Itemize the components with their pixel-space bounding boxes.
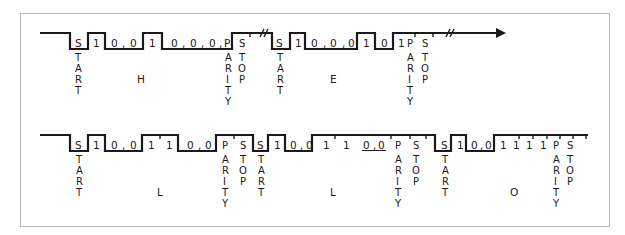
svg-text:O: O xyxy=(239,165,247,176)
svg-text:O: O xyxy=(238,63,246,74)
svg-text:R: R xyxy=(222,165,229,176)
svg-text:S: S xyxy=(276,37,283,49)
svg-text:R: R xyxy=(75,74,82,85)
svg-text:0: 0 xyxy=(381,37,388,49)
svg-text:1: 1 xyxy=(149,37,156,49)
svg-text:O: O xyxy=(566,165,574,176)
svg-text:S: S xyxy=(240,140,246,151)
svg-text:I: I xyxy=(408,74,411,85)
svg-text:T: T xyxy=(238,52,246,63)
svg-text:1: 1 xyxy=(274,139,281,151)
svg-text:R: R xyxy=(76,176,83,187)
svg-text:0: 0 xyxy=(471,139,478,151)
svg-text:1: 1 xyxy=(457,139,464,151)
svg-text:A: A xyxy=(75,63,82,74)
svg-text:1: 1 xyxy=(148,139,155,151)
svg-text:P: P xyxy=(553,140,559,151)
svg-text:0: 0 xyxy=(378,139,385,151)
svg-text:1: 1 xyxy=(323,139,330,151)
svg-text:,: , xyxy=(480,139,483,151)
svg-text:A: A xyxy=(76,165,83,176)
svg-text:S: S xyxy=(567,140,573,151)
svg-text:,: , xyxy=(342,37,345,49)
svg-text:T: T xyxy=(74,52,82,63)
arrow-head-icon xyxy=(496,28,506,38)
svg-text:0: 0 xyxy=(290,139,297,151)
svg-text:T: T xyxy=(552,187,560,198)
svg-text:T: T xyxy=(276,85,284,96)
svg-text:0: 0 xyxy=(205,139,212,151)
svg-text:A: A xyxy=(553,154,560,165)
svg-text:T: T xyxy=(566,154,574,165)
svg-text:1: 1 xyxy=(343,139,350,151)
svg-text:0: 0 xyxy=(130,139,137,151)
svg-text:S: S xyxy=(413,140,419,151)
svg-text:P: P xyxy=(567,176,573,187)
svg-text:0: 0 xyxy=(209,37,216,49)
svg-text:P: P xyxy=(240,176,246,187)
svg-text:I: I xyxy=(396,176,399,187)
row-1-bits-h: S 1 0 , 0 1 0 , 0 , 0 , P xyxy=(75,37,231,49)
svg-text:I: I xyxy=(554,176,557,187)
svg-text:T: T xyxy=(441,187,449,198)
svg-text:T: T xyxy=(421,52,429,63)
svg-text:I: I xyxy=(226,74,229,85)
svg-text:,: , xyxy=(122,37,125,49)
svg-text:P: P xyxy=(407,38,413,49)
svg-text:0: 0 xyxy=(311,37,318,49)
svg-text:,: , xyxy=(122,139,125,151)
svg-text:1: 1 xyxy=(363,37,370,49)
svg-text:R: R xyxy=(395,165,402,176)
svg-text:Y: Y xyxy=(394,198,402,209)
svg-text:1: 1 xyxy=(398,37,405,49)
svg-text:,: , xyxy=(219,37,222,49)
svg-text:A: A xyxy=(222,154,229,165)
svg-text:A: A xyxy=(277,63,284,74)
svg-text:R: R xyxy=(442,176,449,187)
svg-text:R: R xyxy=(258,176,265,187)
svg-text:0: 0 xyxy=(130,37,137,49)
svg-text:T: T xyxy=(276,52,284,63)
svg-text:A: A xyxy=(407,52,414,63)
svg-text:0: 0 xyxy=(348,37,355,49)
svg-text:P: P xyxy=(413,176,419,187)
svg-text:Y: Y xyxy=(221,198,229,209)
svg-text:,: , xyxy=(182,37,185,49)
svg-text:P: P xyxy=(395,140,401,151)
svg-text:R: R xyxy=(277,74,284,85)
char-label-e: E xyxy=(330,73,337,85)
svg-text:R: R xyxy=(407,63,414,74)
svg-text:P: P xyxy=(422,74,428,85)
svg-text:0: 0 xyxy=(363,139,370,151)
svg-text:,: , xyxy=(373,139,376,151)
svg-text:0: 0 xyxy=(485,139,492,151)
char-label-h: H xyxy=(137,73,145,85)
svg-text:T: T xyxy=(257,187,265,198)
serial-timing-diagram: S 1 0 , 0 1 0 , 0 , 0 , P T A R T H A R … xyxy=(0,0,625,235)
char-label-l: L xyxy=(157,186,163,198)
svg-text:Y: Y xyxy=(224,96,232,107)
svg-text:1: 1 xyxy=(166,139,173,151)
svg-text:Y: Y xyxy=(552,198,560,209)
svg-text:S: S xyxy=(239,38,245,49)
char-label-o: O xyxy=(510,186,518,198)
svg-text:T: T xyxy=(257,154,265,165)
svg-text:P: P xyxy=(222,140,228,151)
svg-text:0: 0 xyxy=(111,139,118,151)
svg-text:1: 1 xyxy=(295,37,302,49)
svg-text:T: T xyxy=(239,154,247,165)
svg-text:A: A xyxy=(258,165,265,176)
svg-text:T: T xyxy=(406,85,414,96)
svg-text:O: O xyxy=(412,165,420,176)
svg-text:A: A xyxy=(395,154,402,165)
svg-text:,: , xyxy=(198,139,201,151)
svg-text:I: I xyxy=(223,176,226,187)
svg-text:1: 1 xyxy=(93,37,100,49)
svg-text:A: A xyxy=(442,165,449,176)
svg-text:,: , xyxy=(300,139,303,151)
row-1-bits-e: S 1 0 , 0 , 0 1 0 1 xyxy=(276,37,405,49)
svg-text:0: 0 xyxy=(111,37,118,49)
svg-text:0: 0 xyxy=(330,37,337,49)
svg-text:1: 1 xyxy=(526,139,533,151)
svg-text:S: S xyxy=(257,139,264,151)
